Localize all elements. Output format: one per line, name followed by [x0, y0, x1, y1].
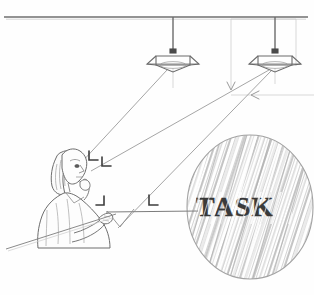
- ceiling-group: [4, 17, 308, 19]
- line-drawing-svg: [0, 0, 314, 295]
- task-word-layer: TASK: [196, 192, 292, 224]
- person-hand-chin: [80, 180, 90, 191]
- ray-task-to-eye: [106, 211, 198, 212]
- task-word: TASK: [196, 192, 274, 222]
- arrow-mid-ray-icon: [149, 195, 158, 205]
- ray-arrowheads: [89, 151, 158, 205]
- person-eye: [75, 165, 79, 168]
- ray-left-lamp-to-eye: [80, 70, 167, 164]
- person-head: [62, 149, 87, 184]
- arrow-at-hand-icon: [96, 196, 104, 205]
- arrow-to-eye-lower-icon: [102, 157, 111, 166]
- ceiling-lamp-right[interactable]: [249, 17, 301, 72]
- ceiling-lamp-left[interactable]: [147, 17, 199, 72]
- lamp-right-canopy: [272, 49, 278, 53]
- lamp-left-canopy: [170, 49, 176, 53]
- figure-canvas: TASK: [0, 0, 314, 295]
